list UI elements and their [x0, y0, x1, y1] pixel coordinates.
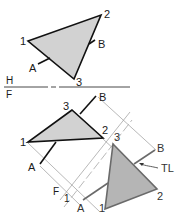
aux-view-line-ab-upper	[134, 150, 155, 164]
front-label-1: 1	[20, 136, 26, 148]
tl-label: TL	[161, 162, 174, 174]
top-label-b: B	[98, 38, 105, 50]
front-label-b: B	[99, 91, 106, 103]
fold-label-f: F	[6, 89, 12, 100]
aux-label-a: A	[77, 202, 85, 214]
aux-label-b: B	[157, 142, 164, 154]
top-label-1: 1	[20, 35, 26, 47]
front-label-3: 3	[63, 100, 69, 112]
top-label-2: 2	[104, 8, 110, 20]
top-view: 1 2 3 A B	[20, 8, 110, 88]
front-view-triangle	[28, 110, 103, 142]
front-view-line-b	[80, 96, 96, 114]
aux-view-line-ab-lower	[83, 183, 108, 200]
aux-label-3: 3	[114, 131, 120, 143]
auxiliary-view-diagram: 1 2 3 A B H F 3 1 2 A B F	[0, 0, 186, 221]
top-view-line-a	[38, 58, 50, 64]
aux-view: 3 2 1 A B TL	[77, 131, 174, 214]
fold-label-f2: F	[53, 186, 59, 197]
tl-leader	[141, 164, 158, 168]
aux-label-1: 1	[99, 202, 105, 214]
aux-label-2: 2	[157, 190, 163, 202]
fold-line-hf: H F	[4, 75, 130, 100]
front-label-2: 2	[102, 124, 108, 136]
top-label-a: A	[29, 62, 37, 74]
top-label-3: 3	[76, 76, 82, 88]
front-view: 3 1 2 A B	[20, 91, 108, 173]
front-view-line-a	[40, 142, 56, 164]
top-view-triangle	[28, 15, 101, 79]
front-label-a: A	[28, 161, 36, 173]
fold-label-1: 1	[64, 193, 70, 204]
fold-label-h: H	[6, 75, 13, 86]
